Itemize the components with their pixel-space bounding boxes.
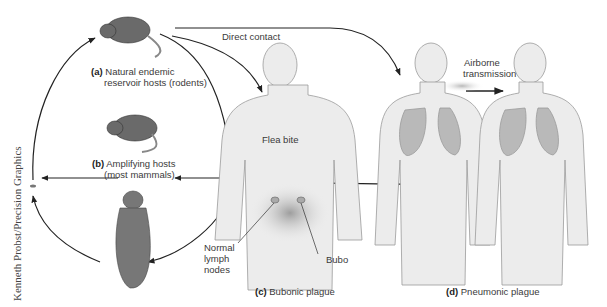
rat-a-illustration bbox=[100, 17, 160, 57]
bubonic-body-illustration bbox=[215, 43, 362, 290]
pneumonic-body-1-illustration bbox=[375, 43, 490, 285]
label-normal-lymph: Normal bbox=[204, 242, 235, 253]
label-d: (d) Pneumonic plague bbox=[446, 286, 539, 297]
prairie-dog-illustration bbox=[116, 191, 150, 288]
label-airborne-2: transmission bbox=[463, 68, 516, 79]
label-a: (a) Natural endemic bbox=[91, 66, 174, 77]
diagram-artwork bbox=[0, 0, 607, 307]
label-flea-bite: Flea bite bbox=[262, 134, 298, 145]
label-a-line2: reservoir hosts (rodents) bbox=[104, 77, 207, 88]
label-b: (b) Amplifying hosts bbox=[92, 158, 175, 169]
pneumonic-body-2-illustration bbox=[475, 43, 588, 285]
rat-b-illustration bbox=[107, 115, 157, 152]
label-normal-lymph-2: lymph bbox=[204, 253, 229, 264]
plague-transmission-diagram: (a) Natural endemic reservoir hosts (rod… bbox=[0, 0, 607, 307]
label-airborne-1: Airborne bbox=[464, 57, 500, 68]
label-bubo: Bubo bbox=[326, 254, 348, 265]
label-normal-lymph-3: nodes bbox=[204, 264, 230, 275]
image-credit: Kenneth Probst/Precision Graphics bbox=[11, 111, 23, 301]
label-direct-contact: Direct contact bbox=[222, 31, 280, 42]
label-c: (c) Bubonic plague bbox=[255, 286, 335, 297]
label-b-line2: (most mammals) bbox=[104, 169, 175, 180]
